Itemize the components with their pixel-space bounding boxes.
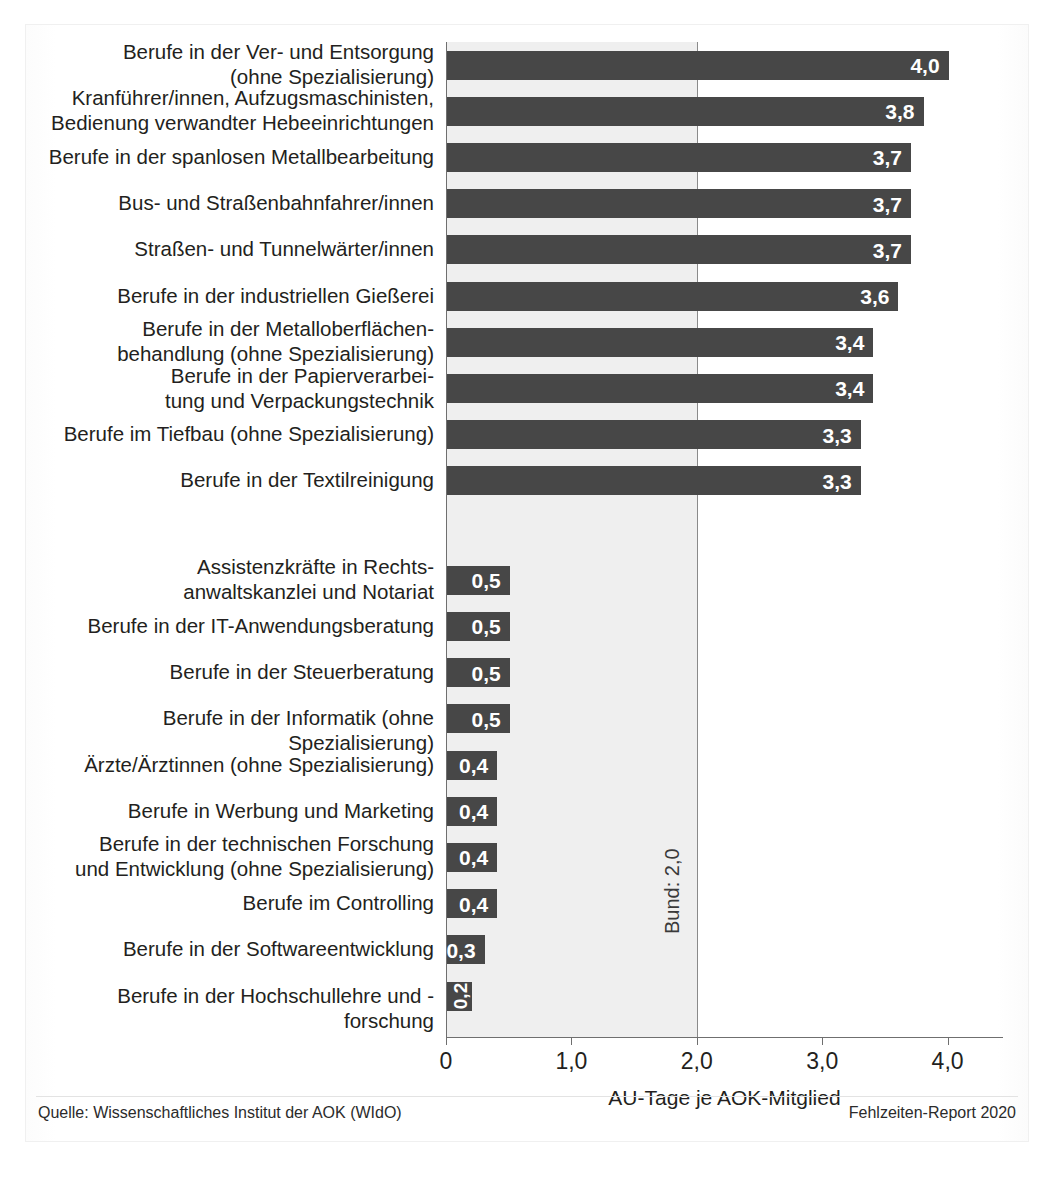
bar-value-label: 0,4 bbox=[459, 847, 488, 868]
category-label: Berufe in der IT-Anwendungsberatung bbox=[88, 613, 434, 638]
bar-chart: Bund: 2,0 Berufe in der Ver- und Entsorg… bbox=[36, 36, 1018, 1046]
bar-row: Berufe in der Softwareentwicklung0,3 bbox=[36, 927, 1018, 973]
bar-value-label: 3,6 bbox=[860, 286, 889, 307]
bar[interactable]: 0,4 bbox=[447, 751, 497, 780]
bar-row: Berufe in der technischen Forschung und … bbox=[36, 834, 1018, 880]
bar[interactable]: 3,3 bbox=[447, 420, 861, 449]
bar-row: Berufe in der industriellen Gießerei3,6 bbox=[36, 273, 1018, 319]
bar[interactable]: 0,2 bbox=[447, 982, 472, 1011]
x-tick-2 bbox=[697, 1037, 698, 1045]
bar-value-label: 0,4 bbox=[459, 801, 488, 822]
bar-value-label: 3,3 bbox=[823, 470, 852, 491]
category-label: Ärzte/Ärztinnen (ohne Spezialisierung) bbox=[84, 752, 434, 777]
bar[interactable]: 0,5 bbox=[447, 566, 510, 595]
category-label: Berufe im Controlling bbox=[243, 890, 434, 915]
category-label: Assistenzkräfte in Rechts- anwaltskanzle… bbox=[183, 554, 434, 604]
bar[interactable]: 0,4 bbox=[447, 889, 497, 918]
bar[interactable]: 0,5 bbox=[447, 704, 510, 733]
category-label: Berufe in der spanlosen Metallbearbeitun… bbox=[49, 144, 434, 169]
bar-row: Berufe in der Hochschullehre und -forsch… bbox=[36, 973, 1018, 1019]
bar[interactable]: 4,0 bbox=[447, 51, 949, 80]
bar-value-label: 0,4 bbox=[459, 755, 488, 776]
bar-value-label: 3,8 bbox=[885, 101, 914, 122]
x-tick-3 bbox=[822, 1037, 823, 1045]
bar-row: Berufe im Controlling0,4 bbox=[36, 881, 1018, 927]
bar[interactable]: 3,8 bbox=[447, 97, 924, 126]
category-label: Berufe in der technischen Forschung und … bbox=[75, 831, 434, 881]
bar-value-label: 0,5 bbox=[471, 570, 500, 591]
category-label: Bus- und Straßenbahnfahrer/innen bbox=[118, 190, 434, 215]
bar-row: Berufe in der Informatik (ohne Spezialis… bbox=[36, 696, 1018, 742]
bar-row: Berufe in der spanlosen Metallbearbeitun… bbox=[36, 134, 1018, 180]
bar-value-label: 0,5 bbox=[471, 708, 500, 729]
x-tick-4 bbox=[948, 1037, 949, 1045]
bar[interactable]: 3,4 bbox=[447, 374, 873, 403]
chart-page: Bund: 2,0 Berufe in der Ver- und Entsorg… bbox=[0, 0, 1054, 1190]
category-label: Berufe in der Softwareentwicklung bbox=[123, 936, 434, 961]
bar-row: Berufe in Werbung und Marketing0,4 bbox=[36, 788, 1018, 834]
bar-row: Berufe in der Ver- und Entsorgung (ohne … bbox=[36, 42, 1018, 88]
bar[interactable]: 3,4 bbox=[447, 328, 873, 357]
bar[interactable]: 3,7 bbox=[447, 143, 911, 172]
bar-value-label: 3,7 bbox=[873, 193, 902, 214]
bar-row: Ärzte/Ärztinnen (ohne Spezialisierung)0,… bbox=[36, 742, 1018, 788]
bar-row: Kranführer/innen, Aufzugsmaschinisten, B… bbox=[36, 88, 1018, 134]
category-label: Berufe in der Steuerberatung bbox=[170, 659, 434, 684]
bar-row: Berufe in der Papierverarbei- tung und V… bbox=[36, 365, 1018, 411]
bar[interactable]: 3,7 bbox=[447, 235, 911, 264]
bar-row: Berufe in der IT-Anwendungsberatung0,5 bbox=[36, 603, 1018, 649]
category-label: Kranführer/innen, Aufzugsmaschinisten, B… bbox=[51, 85, 434, 135]
x-tick-label-2: 2,0 bbox=[681, 1048, 713, 1075]
bar-value-label: 3,7 bbox=[873, 239, 902, 260]
category-label: Berufe in der industriellen Gießerei bbox=[117, 283, 434, 308]
bar-row: Bus- und Straßenbahnfahrer/innen3,7 bbox=[36, 181, 1018, 227]
bar-row: Berufe in der Steuerberatung0,5 bbox=[36, 650, 1018, 696]
category-label: Berufe in der Hochschullehre und -forsch… bbox=[36, 983, 434, 1033]
bar-value-label: 4,0 bbox=[910, 55, 939, 76]
report-note: Fehlzeiten-Report 2020 bbox=[849, 1104, 1016, 1122]
bar-value-label: 3,4 bbox=[835, 378, 864, 399]
bar-row: Berufe im Tiefbau (ohne Spezialisierung)… bbox=[36, 412, 1018, 458]
category-label: Berufe in der Ver- und Entsorgung (ohne … bbox=[123, 39, 434, 89]
bar[interactable]: 3,3 bbox=[447, 466, 861, 495]
bar-value-label: 0,2 bbox=[450, 983, 469, 1009]
footer-divider bbox=[36, 1096, 1018, 1097]
x-tick-1 bbox=[571, 1037, 572, 1045]
bar-row: Berufe in der Textilreinigung3,3 bbox=[36, 458, 1018, 504]
bar[interactable]: 0,4 bbox=[447, 797, 497, 826]
bar[interactable]: 0,4 bbox=[447, 843, 497, 872]
bar-value-label: 3,4 bbox=[835, 332, 864, 353]
x-tick-label-4: 4,0 bbox=[932, 1048, 964, 1075]
x-tick-label-0: 0 bbox=[440, 1048, 453, 1075]
bar-row: Berufe in der Metalloberflächen- behandl… bbox=[36, 319, 1018, 365]
category-label: Berufe in der Metalloberflächen- behandl… bbox=[117, 316, 434, 366]
x-tick-label-3: 3,0 bbox=[806, 1048, 838, 1075]
bar[interactable]: 0,3 bbox=[447, 935, 485, 964]
bar-row: Assistenzkräfte in Rechts- anwaltskanzle… bbox=[36, 557, 1018, 603]
category-label: Straßen- und Tunnelwärter/innen bbox=[134, 236, 434, 261]
bar[interactable]: 0,5 bbox=[447, 658, 510, 687]
category-label: Berufe im Tiefbau (ohne Spezialisierung) bbox=[64, 421, 434, 446]
bar-value-label: 0,5 bbox=[471, 616, 500, 637]
bar[interactable]: 3,7 bbox=[447, 189, 911, 218]
category-label: Berufe in der Papierverarbei- tung und V… bbox=[165, 363, 434, 413]
x-tick-0 bbox=[446, 1037, 447, 1045]
bar-value-label: 3,3 bbox=[823, 424, 852, 445]
bar-value-label: 0,3 bbox=[446, 939, 475, 960]
x-axis-line bbox=[446, 1037, 1003, 1038]
bar-row: Straßen- und Tunnelwärter/innen3,7 bbox=[36, 227, 1018, 273]
bar-value-label: 3,7 bbox=[873, 147, 902, 168]
source-note: Quelle: Wissenschaftliches Institut der … bbox=[38, 1104, 402, 1122]
bar[interactable]: 3,6 bbox=[447, 282, 898, 311]
x-tick-label-1: 1,0 bbox=[555, 1048, 587, 1075]
category-label: Berufe in der Textilreinigung bbox=[180, 467, 434, 492]
bar[interactable]: 0,5 bbox=[447, 612, 510, 641]
bar-value-label: 0,4 bbox=[459, 893, 488, 914]
bar-value-label: 0,5 bbox=[471, 662, 500, 683]
category-label: Berufe in Werbung und Marketing bbox=[128, 798, 434, 823]
